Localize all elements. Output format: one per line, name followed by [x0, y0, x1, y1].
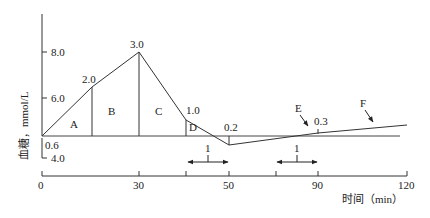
- value-0-3: 0.3: [314, 115, 328, 127]
- baseline-value: 0.6: [45, 139, 59, 151]
- x-tick-50: 50: [223, 179, 235, 191]
- interval-label-2: 1: [294, 142, 300, 154]
- value-0-2: 0.2: [224, 121, 238, 133]
- value-1: 1.0: [186, 104, 200, 116]
- x-tick-90: 90: [312, 179, 324, 191]
- y-tick-8: 8.0: [51, 46, 65, 58]
- x-tick-120: 120: [398, 179, 415, 191]
- label-f: F: [360, 97, 366, 109]
- glucose-chart: 8.0 6.0 4.0 0.6 血糖，mmol/L A B C D 2.0 3.…: [0, 0, 430, 218]
- x-tick-30: 30: [133, 179, 145, 191]
- y-tick-4: 4.0: [51, 152, 65, 164]
- region-d: D: [189, 121, 197, 133]
- y-tick-6: 6.0: [51, 92, 65, 104]
- interval-label-1: 1: [205, 142, 211, 154]
- x-tick-0: 0: [38, 179, 44, 191]
- value-2: 2.0: [82, 73, 96, 85]
- x-axis-label: 时间（min）: [342, 193, 403, 205]
- region-a: A: [70, 118, 78, 130]
- region-b: B: [108, 105, 115, 117]
- region-c: C: [155, 105, 162, 117]
- value-3: 3.0: [130, 38, 144, 50]
- label-e: E: [295, 102, 302, 114]
- y-axis-label: 血糖，mmol/L: [17, 91, 30, 160]
